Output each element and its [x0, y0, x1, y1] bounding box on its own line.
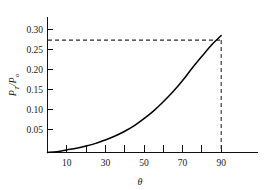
- x-axis-title: θ: [138, 176, 143, 187]
- y-tick-label: 0.25: [26, 45, 43, 55]
- y-tick-label: 0.20: [26, 65, 43, 75]
- chart-figure: 0.30 0.25 0.20 0.15 0.10 0.05: [0, 0, 264, 190]
- chart-svg: 0.30 0.25 0.20 0.15 0.10 0.05: [0, 0, 264, 190]
- y-axis-title-numerator: P: [7, 90, 18, 97]
- x-tick-label: 10: [62, 158, 72, 168]
- y-tick-label: 0.15: [26, 85, 43, 95]
- y-tick-label: 0.10: [26, 105, 43, 115]
- x-tick-label: 50: [139, 158, 149, 168]
- y-axis-title-denominator-sub: o: [13, 73, 21, 77]
- x-tick-label: 90: [216, 158, 226, 168]
- x-tick-label: 30: [101, 158, 111, 168]
- y-axis-title-denominator: P: [7, 77, 18, 84]
- y-tick-label: 0.30: [26, 25, 43, 35]
- y-tick-label: 0.05: [26, 125, 43, 135]
- x-tick-label: 70: [178, 158, 188, 168]
